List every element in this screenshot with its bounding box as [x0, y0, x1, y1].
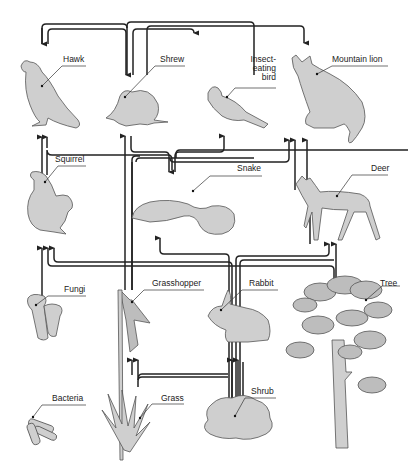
- label-squirrel: Squirrel: [55, 155, 84, 164]
- label-shrew: Shrew: [160, 55, 184, 64]
- label-mountain-lion: Mountain lion: [332, 55, 383, 64]
- label-shrub: Shrub: [251, 387, 274, 396]
- squirrel-illustration: [28, 166, 86, 234]
- label-rabbit: Rabbit: [249, 279, 274, 288]
- insect-eating-bird-illustration: [208, 87, 276, 128]
- snake-illustration: [132, 176, 262, 234]
- label-bacteria: Bacteria: [52, 394, 83, 403]
- food-web-diagram: Hawk Shrew Insect- eating bird Mountain …: [0, 0, 416, 473]
- label-fungi: Fungi: [64, 285, 85, 294]
- hawk-illustration: [21, 61, 86, 128]
- shrub-illustration: [204, 395, 276, 439]
- fungi-illustration: [28, 294, 87, 340]
- mountain-lion-illustration: [292, 55, 388, 143]
- label-grasshopper: Grasshopper: [152, 279, 201, 288]
- tree-illustration: [286, 276, 400, 448]
- shrew-illustration: [106, 66, 185, 126]
- deer-illustration: [296, 175, 388, 240]
- label-snake: Snake: [237, 164, 261, 173]
- rabbit-illustration: [208, 290, 278, 342]
- label-hawk: Hawk: [63, 55, 84, 64]
- label-deer: Deer: [371, 164, 389, 173]
- bacteria-illustration: [26, 405, 86, 446]
- label-grass: Grass: [161, 394, 184, 403]
- label-insect-eating-bird: Insect- eating bird: [246, 55, 276, 82]
- label-tree: Tree: [380, 279, 397, 288]
